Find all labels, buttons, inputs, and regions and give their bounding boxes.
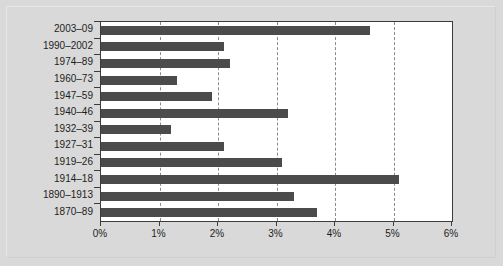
bar[interactable] <box>101 42 224 51</box>
bar-row <box>101 105 452 122</box>
bar-row <box>101 155 452 172</box>
bar-series <box>101 22 452 221</box>
y-axis-label: 1919–26 <box>0 157 93 167</box>
bar[interactable] <box>101 158 282 167</box>
x-axis-tick <box>217 221 218 226</box>
bar-row <box>101 55 452 72</box>
x-axis-tick <box>393 221 394 226</box>
y-axis-label: 1974–89 <box>0 57 93 67</box>
bar[interactable] <box>101 192 294 201</box>
bar[interactable] <box>101 59 230 68</box>
x-axis-tick <box>100 221 101 226</box>
bar-row <box>101 171 452 188</box>
y-axis-tick-labels: 2003–091990–20021974–891960–731947–59194… <box>0 21 93 220</box>
y-axis-label: 1960–73 <box>0 74 93 84</box>
bar-row <box>101 22 452 39</box>
y-axis-label: 1990–2002 <box>0 41 93 51</box>
x-axis-label: 3% <box>256 228 296 239</box>
bar[interactable] <box>101 76 177 85</box>
bar[interactable] <box>101 208 317 217</box>
bar-row <box>101 72 452 89</box>
y-axis-label: 1890–1913 <box>0 190 93 200</box>
x-axis-label: 4% <box>314 228 354 239</box>
x-axis-tick <box>451 221 452 226</box>
bar[interactable] <box>101 175 399 184</box>
y-axis-label: 1932–39 <box>0 124 93 134</box>
x-axis-tick <box>334 221 335 226</box>
bar-row <box>101 138 452 155</box>
bar-row <box>101 188 452 205</box>
bar-row <box>101 122 452 139</box>
bar[interactable] <box>101 125 171 134</box>
x-axis-tick <box>159 221 160 226</box>
bar-row <box>101 204 452 221</box>
bar-row <box>101 88 452 105</box>
y-axis-label: 1947–59 <box>0 91 93 101</box>
x-axis-label: 0% <box>80 228 120 239</box>
chart-figure: 2003–091990–20021974–891960–731947–59194… <box>0 0 503 266</box>
y-axis-label: 2003–09 <box>0 24 93 34</box>
x-axis-tick-marks <box>100 221 453 226</box>
bar[interactable] <box>101 142 224 151</box>
x-axis-label: 2% <box>197 228 237 239</box>
y-axis-label: 1870–89 <box>0 207 93 217</box>
x-axis-label: 1% <box>139 228 179 239</box>
plot-area <box>100 21 453 222</box>
bar[interactable] <box>101 109 288 118</box>
y-axis-label: 1914–18 <box>0 174 93 184</box>
x-axis-label: 6% <box>431 228 471 239</box>
bar[interactable] <box>101 92 212 101</box>
y-axis-label: 1927–31 <box>0 140 93 150</box>
x-axis-tick <box>276 221 277 226</box>
bar[interactable] <box>101 26 370 35</box>
bar-row <box>101 39 452 56</box>
x-axis-label: 5% <box>373 228 413 239</box>
x-axis-tick-labels: 0%1%2%3%4%5%6% <box>60 228 490 244</box>
y-axis-label: 1940–46 <box>0 107 93 117</box>
